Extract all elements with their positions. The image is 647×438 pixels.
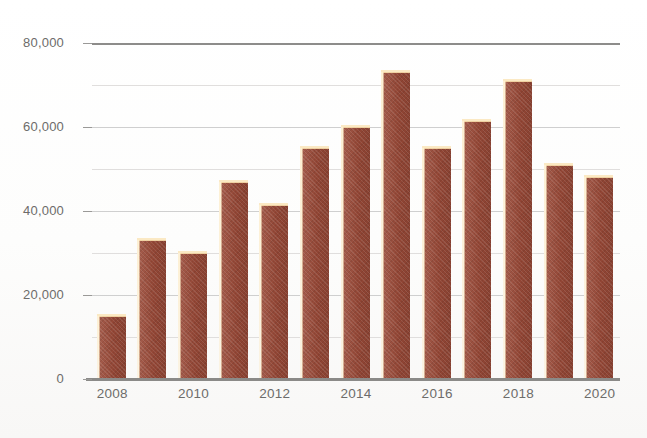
x-axis-line xyxy=(86,378,620,381)
x-axis-labels: 2008201020122014201620182020 xyxy=(92,386,620,416)
bar-2016 xyxy=(424,148,451,379)
x-tick-label-2008: 2008 xyxy=(82,386,142,401)
bar-2017 xyxy=(464,121,491,379)
y-axis-labels: 80,00060,00040,00020,0000 xyxy=(0,0,86,438)
bar-2012 xyxy=(261,205,288,379)
bar-2015 xyxy=(383,72,410,379)
x-tick-label-2020: 2020 xyxy=(570,386,630,401)
bar-2008 xyxy=(99,316,126,379)
x-tick-label-2016: 2016 xyxy=(407,386,467,401)
y-tick-mark-20000 xyxy=(83,295,92,296)
bar-2014 xyxy=(343,127,370,379)
y-tick-mark-0 xyxy=(83,379,92,380)
bar-chart-figure: 80,00060,00040,00020,0000 20082010201220… xyxy=(0,0,647,438)
bar-2020 xyxy=(586,177,613,379)
x-tick-label-2012: 2012 xyxy=(245,386,305,401)
y-tick-label-60000: 60,000 xyxy=(0,120,64,133)
y-tick-mark-40000 xyxy=(83,211,92,212)
x-tick-label-2010: 2010 xyxy=(164,386,224,401)
y-tick-label-80000: 80,000 xyxy=(0,36,64,49)
y-tick-label-20000: 20,000 xyxy=(0,288,64,301)
bar-2010 xyxy=(180,253,207,379)
bar-2019 xyxy=(546,165,573,379)
bar-2018 xyxy=(505,81,532,379)
x-tick-label-2018: 2018 xyxy=(488,386,548,401)
bars-layer xyxy=(92,43,620,379)
x-tick-label-2014: 2014 xyxy=(326,386,386,401)
y-tick-mark-60000 xyxy=(83,127,92,128)
bar-2009 xyxy=(139,240,166,379)
y-tick-mark-80000 xyxy=(83,43,92,44)
y-tick-label-40000: 40,000 xyxy=(0,204,64,217)
bar-2013 xyxy=(302,148,329,379)
bar-2011 xyxy=(221,182,248,379)
y-tick-label-0: 0 xyxy=(0,372,64,385)
